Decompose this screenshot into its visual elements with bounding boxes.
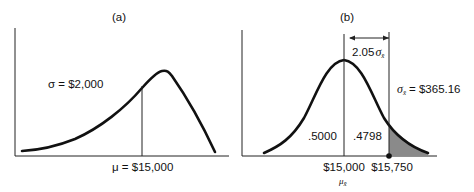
value-point <box>386 153 392 159</box>
arrow-head-right-icon <box>383 36 389 41</box>
panel-a-title: (a) <box>112 11 126 23</box>
left-area-label: .5000 <box>308 130 337 142</box>
middle-area-label: .4798 <box>353 130 382 142</box>
standard-error-label: σx̄= $365.16 <box>397 82 461 97</box>
value-tick-label: $15,750 <box>371 161 413 173</box>
mu-xbar-label: μx̄ <box>338 176 348 188</box>
distance-label: 2.05σx̄ <box>352 45 385 60</box>
chart-canvas: (a) σ = $2,000 μ = $15,000 (b) 2.05σx̄ σ… <box>0 0 474 192</box>
panel-b: (b) 2.05σx̄ σx̄= $365.16 .5000 .4798 $15… <box>242 11 461 188</box>
panel-a: (a) σ = $2,000 μ = $15,000 <box>15 11 229 173</box>
panel-b-title: (b) <box>340 11 354 23</box>
mean-tick-label: $15,000 <box>323 161 365 173</box>
mu-label: μ = $15,000 <box>112 161 173 173</box>
arrow-head-left-icon <box>349 36 355 41</box>
sigma-label: σ = $2,000 <box>48 78 103 90</box>
normal-distribution-curve <box>264 60 428 153</box>
